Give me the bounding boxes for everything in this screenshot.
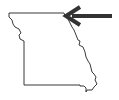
state-map: [0, 0, 119, 100]
arrow-icon: [66, 7, 112, 25]
state-outline: [9, 13, 97, 92]
